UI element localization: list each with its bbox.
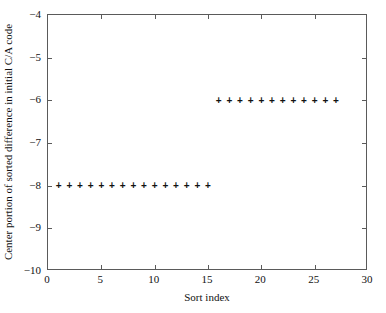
plot-area bbox=[47, 14, 367, 270]
x-tick-label: 15 bbox=[202, 273, 213, 285]
x-axis-tick bbox=[315, 15, 316, 19]
data-point bbox=[108, 181, 117, 190]
data-point bbox=[332, 96, 341, 105]
data-point bbox=[225, 96, 234, 105]
data-point bbox=[140, 181, 149, 190]
data-point bbox=[161, 181, 170, 190]
y-tick-label: −6 bbox=[29, 93, 41, 105]
x-axis-tick bbox=[155, 265, 156, 269]
data-point bbox=[321, 96, 330, 105]
data-point bbox=[97, 181, 106, 190]
data-point bbox=[193, 181, 202, 190]
y-axis-tick bbox=[48, 186, 52, 187]
y-tick-label: −9 bbox=[29, 221, 41, 233]
y-tick-label: −5 bbox=[29, 51, 41, 63]
data-point bbox=[204, 181, 213, 190]
x-tick-label: 20 bbox=[255, 273, 266, 285]
y-axis-tick bbox=[362, 58, 366, 59]
y-axis-tick bbox=[362, 100, 366, 101]
y-axis-tick bbox=[362, 186, 366, 187]
data-point bbox=[172, 181, 181, 190]
data-point bbox=[182, 181, 191, 190]
x-tick-label: 5 bbox=[98, 273, 104, 285]
data-point bbox=[76, 181, 85, 190]
x-axis-tick bbox=[315, 265, 316, 269]
data-point bbox=[65, 181, 74, 190]
y-axis-tick bbox=[362, 143, 366, 144]
y-tick-label: −8 bbox=[29, 179, 41, 191]
data-point bbox=[54, 181, 63, 190]
data-point bbox=[300, 96, 309, 105]
y-axis-tick bbox=[48, 143, 52, 144]
data-point bbox=[118, 181, 127, 190]
data-series-layer bbox=[48, 15, 366, 269]
x-axis-tick bbox=[261, 265, 262, 269]
y-tick-label: −10 bbox=[24, 264, 41, 276]
x-tick-label: 25 bbox=[308, 273, 319, 285]
y-axis-title-wrapper: Center portion of sorted difference in i… bbox=[0, 14, 16, 270]
x-tick-label: 0 bbox=[44, 273, 50, 285]
data-point bbox=[150, 181, 159, 190]
y-axis-tick bbox=[362, 228, 366, 229]
data-point bbox=[214, 96, 223, 105]
x-axis-tick bbox=[101, 15, 102, 19]
data-point bbox=[310, 96, 319, 105]
y-tick-label: −7 bbox=[29, 136, 41, 148]
data-point bbox=[129, 181, 138, 190]
x-axis-tick bbox=[208, 265, 209, 269]
y-axis-tick bbox=[48, 228, 52, 229]
data-point bbox=[246, 96, 255, 105]
data-point bbox=[278, 96, 287, 105]
y-axis-tick bbox=[48, 100, 52, 101]
data-point bbox=[268, 96, 277, 105]
x-axis-tick bbox=[261, 15, 262, 19]
x-tick-label: 10 bbox=[148, 273, 159, 285]
x-axis-title: Sort index bbox=[47, 291, 367, 304]
data-point bbox=[86, 181, 95, 190]
x-axis-tick bbox=[101, 265, 102, 269]
data-point bbox=[257, 96, 266, 105]
chart-figure: 051015202530 −10−9−8−7−6−5−4 Sort index … bbox=[0, 0, 386, 313]
data-point bbox=[289, 96, 298, 105]
x-axis-tick bbox=[208, 15, 209, 19]
y-tick-label: −4 bbox=[29, 8, 41, 20]
y-axis-title: Center portion of sorted difference in i… bbox=[2, 24, 15, 260]
data-point bbox=[236, 96, 245, 105]
x-axis-tick bbox=[155, 15, 156, 19]
y-axis-tick bbox=[48, 58, 52, 59]
x-tick-label: 30 bbox=[362, 273, 373, 285]
